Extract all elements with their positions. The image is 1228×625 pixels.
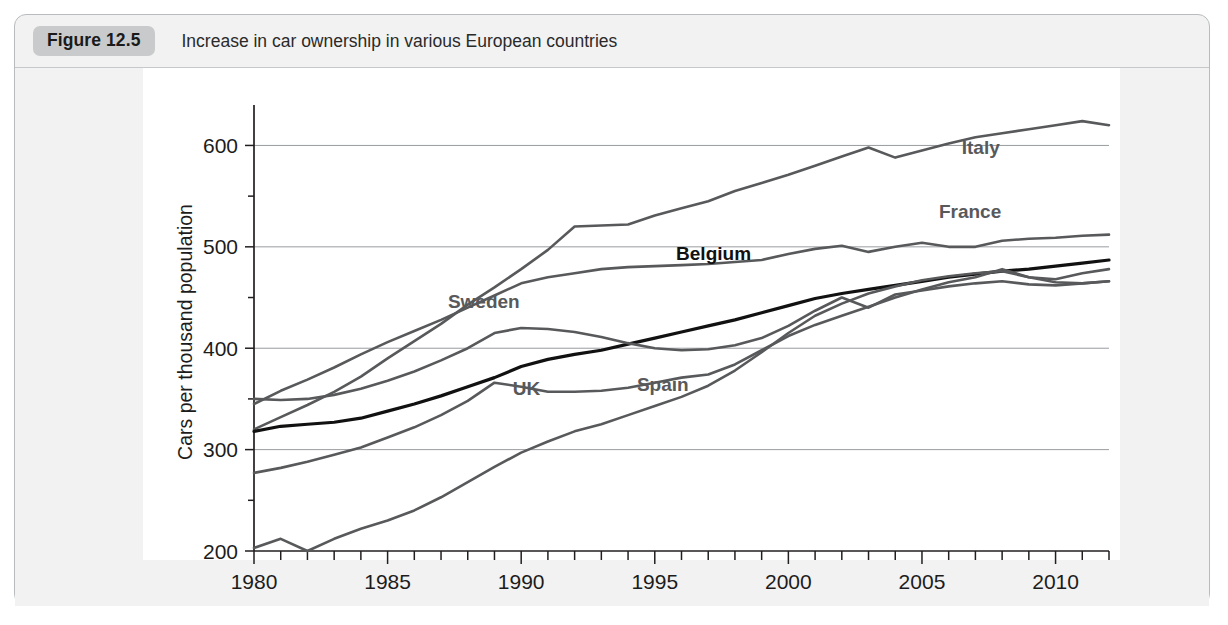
x-tick-label-1985: 1985 bbox=[364, 570, 411, 593]
y-tick-label-200: 200 bbox=[203, 540, 238, 563]
series-label-spain: Spain bbox=[637, 374, 689, 395]
x-tick-label-1995: 1995 bbox=[631, 570, 678, 593]
figure-header: Figure 12.5 Increase in car ownership in… bbox=[15, 15, 1209, 68]
x-tick-label-2010: 2010 bbox=[1032, 570, 1079, 593]
y-axis-title: Cars per thousand population bbox=[174, 204, 196, 460]
series-label-sweden: Sweden bbox=[448, 291, 520, 312]
figure-caption: Increase in car ownership in various Eur… bbox=[182, 32, 618, 50]
x-tick-label-2005: 2005 bbox=[899, 570, 946, 593]
series-label-belgium: Belgium bbox=[676, 243, 751, 264]
y-tick-label-500: 500 bbox=[203, 235, 238, 258]
figure-number-badge: Figure 12.5 bbox=[33, 26, 155, 55]
figure-card: Figure 12.5 Increase in car ownership in… bbox=[14, 14, 1210, 606]
series-label-france: France bbox=[939, 201, 1001, 222]
series-line-uk bbox=[254, 269, 1109, 473]
series-label-uk: UK bbox=[513, 378, 541, 399]
plot-panel: 2003004005006001980198519901995200020052… bbox=[15, 68, 1209, 606]
line-chart: 2003004005006001980198519901995200020052… bbox=[15, 68, 1211, 606]
y-tick-label-600: 600 bbox=[203, 134, 238, 157]
x-tick-label-1980: 1980 bbox=[231, 570, 278, 593]
x-tick-label-2000: 2000 bbox=[765, 570, 812, 593]
y-tick-label-400: 400 bbox=[203, 337, 238, 360]
series-label-italy: Italy bbox=[962, 137, 1000, 158]
y-tick-label-300: 300 bbox=[203, 438, 238, 461]
x-tick-label-1990: 1990 bbox=[498, 570, 545, 593]
